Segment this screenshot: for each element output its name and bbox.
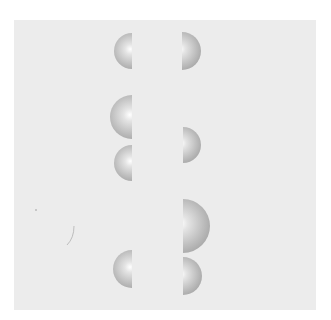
stray-mark [30,200,80,250]
hemisphere-right [183,199,210,253]
hemisphere-right [183,127,201,163]
hemisphere-left [110,95,132,139]
hemisphere-left [113,250,132,288]
hemisphere-right [182,32,201,70]
puzzle-panel [14,20,316,310]
hemisphere-left [114,145,132,181]
hemisphere-left [114,33,132,69]
hemisphere-right [183,257,202,295]
